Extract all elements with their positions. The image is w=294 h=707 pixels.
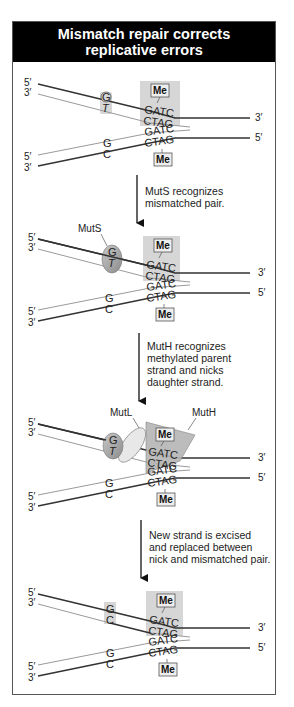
base-c: C bbox=[103, 148, 111, 160]
mutl-label: MutL bbox=[110, 407, 133, 418]
step-2-caption: strand and nicks bbox=[147, 364, 223, 376]
panel-1: 5′ 3′ 3′ 5′ 5′ 3′ G T Me GATC CTAG GATC … bbox=[24, 77, 263, 173]
five-prime-label: 5′ bbox=[24, 151, 32, 162]
three-prime-label: 3′ bbox=[255, 112, 263, 123]
base-c: C bbox=[105, 488, 113, 500]
step-1-caption: mismatched pair. bbox=[145, 197, 224, 209]
five-prime-label: 5′ bbox=[255, 132, 263, 143]
panel-2: 5′ 3′ 3′ 5′ 5′ 3′ MutS G T Me GATC CTAG … bbox=[28, 223, 266, 328]
step-2-caption: methylated parent bbox=[147, 352, 231, 364]
step-3-caption: New strand is excised bbox=[149, 529, 251, 541]
three-prime-label: 3′ bbox=[28, 672, 36, 683]
three-prime-label: 3′ bbox=[28, 502, 36, 513]
step-3-caption: nick and mismatched pair. bbox=[149, 553, 270, 565]
three-prime-label: 3′ bbox=[24, 87, 32, 98]
step-2-caption: MutH recognizes bbox=[147, 340, 226, 352]
panel-4: 5′ 3′ 3′ 5′ 5′ 3′ G C Me GATC CTAG GATC … bbox=[28, 587, 266, 683]
three-prime-label: 3′ bbox=[28, 597, 36, 608]
methyl-label: Me bbox=[159, 494, 173, 505]
methyl-label: Me bbox=[159, 595, 173, 606]
methyl-label: Me bbox=[153, 85, 167, 96]
corrected-base-bottom: C bbox=[106, 614, 114, 626]
five-prime-label: 5′ bbox=[28, 491, 36, 502]
muth-label: MutH bbox=[192, 407, 216, 418]
step-2-caption: daughter strand. bbox=[147, 376, 223, 388]
three-prime-label: 3′ bbox=[258, 267, 266, 278]
step-1-caption: MutS recognizes bbox=[145, 185, 223, 197]
methyl-label: Me bbox=[161, 664, 175, 675]
panel-3: 5′ 3′ 3′ 5′ 5′ 3′ MutL MutH G T Me GATC … bbox=[28, 407, 266, 513]
three-prime-label: 3′ bbox=[28, 427, 36, 438]
methyl-label: Me bbox=[156, 240, 170, 251]
base-c: C bbox=[106, 658, 114, 670]
three-prime-label: 3′ bbox=[24, 162, 32, 173]
five-prime-label: 5′ bbox=[258, 472, 266, 483]
methyl-label: Me bbox=[158, 429, 172, 440]
methyl-label: Me bbox=[156, 154, 170, 165]
step-3-caption: and replaced between bbox=[149, 541, 252, 553]
muts-label: MutS bbox=[78, 223, 102, 234]
five-prime-label: 5′ bbox=[258, 642, 266, 653]
five-prime-label: 5′ bbox=[258, 287, 266, 298]
base-c: C bbox=[105, 303, 113, 315]
three-prime-label: 3′ bbox=[258, 622, 266, 633]
three-prime-label: 3′ bbox=[28, 242, 36, 253]
three-prime-label: 3′ bbox=[28, 317, 36, 328]
five-prime-label: 5′ bbox=[28, 661, 36, 672]
mismatch-repair-diagram: 5′ 3′ 3′ 5′ 5′ 3′ G T Me GATC CTAG GATC … bbox=[0, 0, 294, 707]
methyl-label: Me bbox=[158, 309, 172, 320]
three-prime-label: 3′ bbox=[258, 452, 266, 463]
five-prime-label: 5′ bbox=[28, 306, 36, 317]
